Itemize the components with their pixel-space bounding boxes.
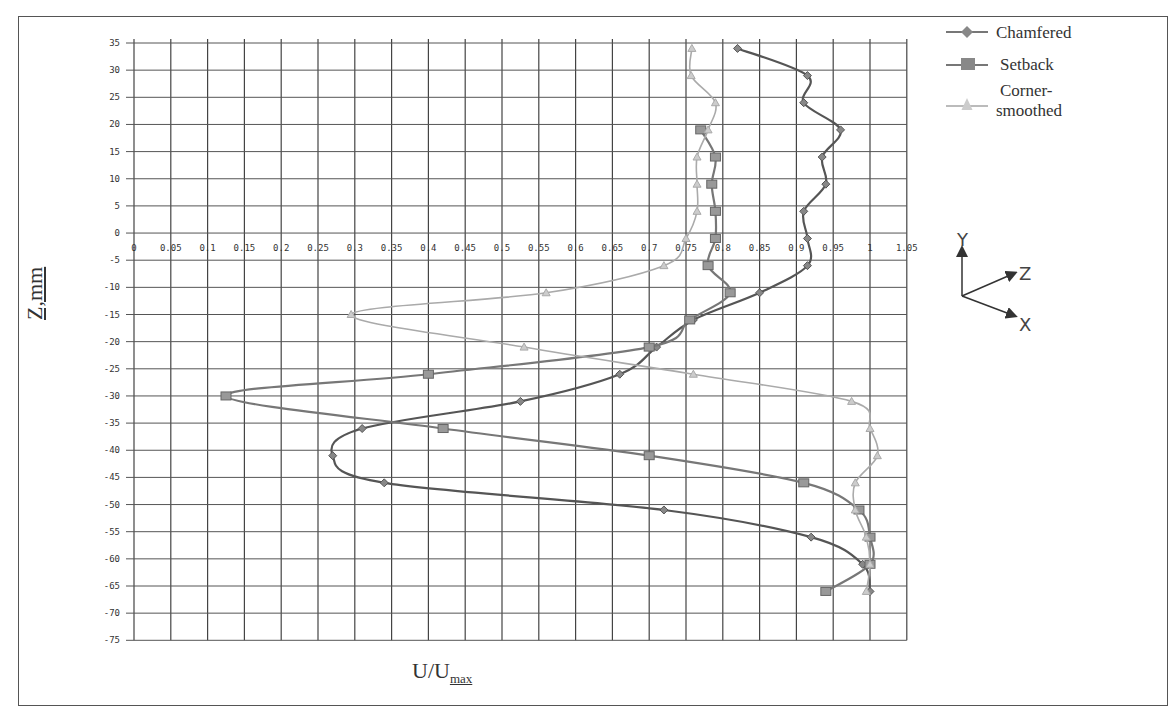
legend-label: Setback [1000, 56, 1054, 73]
x-axis-label: U/Umax [412, 658, 472, 687]
diamond-marker-icon [946, 26, 988, 38]
svg-text:0: 0 [131, 243, 136, 253]
svg-text:0.6: 0.6 [567, 243, 583, 253]
svg-text:0.55: 0.55 [528, 243, 550, 253]
svg-text:0.4: 0.4 [420, 243, 436, 253]
svg-text:-25: -25 [104, 364, 120, 374]
svg-text:0.45: 0.45 [454, 243, 476, 253]
svg-text:-15: -15 [104, 310, 120, 320]
svg-text:-45: -45 [104, 472, 120, 482]
svg-text:5: 5 [115, 201, 120, 211]
svg-text:-55: -55 [104, 527, 120, 537]
triangle-marker-icon [946, 98, 988, 110]
svg-text:0.25: 0.25 [307, 243, 329, 253]
svg-text:1.05: 1.05 [896, 243, 918, 253]
coordinate-axes-icon: Y Z X [945, 228, 1045, 338]
x-axis-icon-label: X [1019, 314, 1031, 335]
svg-text:10: 10 [109, 174, 120, 184]
svg-text:-50: -50 [104, 500, 120, 510]
svg-text:-60: -60 [104, 554, 120, 564]
svg-text:25: 25 [109, 92, 120, 102]
svg-text:0.05: 0.05 [160, 243, 182, 253]
legend-label-line2: smoothed [996, 102, 1062, 119]
svg-text:-30: -30 [104, 391, 120, 401]
svg-text:-5: -5 [109, 255, 120, 265]
data-series [221, 44, 881, 595]
legend-item-setback: Setback [940, 52, 1120, 84]
svg-text:0.8: 0.8 [715, 243, 731, 253]
svg-text:0.65: 0.65 [602, 243, 624, 253]
legend-label: Corner- [1000, 82, 1053, 99]
svg-text:1: 1 [867, 243, 872, 253]
svg-text:-35: -35 [104, 418, 120, 428]
svg-text:0.1: 0.1 [199, 243, 215, 253]
svg-text:-20: -20 [104, 337, 120, 347]
svg-text:0.75: 0.75 [675, 243, 697, 253]
legend: Chamfered Setback Corner- smoothed [940, 20, 1120, 128]
svg-text:0.3: 0.3 [347, 243, 363, 253]
legend-item-chamfered: Chamfered [940, 20, 1120, 52]
svg-text:-75: -75 [104, 635, 120, 645]
svg-text:0.5: 0.5 [494, 243, 510, 253]
svg-text:0.7: 0.7 [641, 243, 657, 253]
square-marker-icon [946, 58, 988, 70]
svg-text:15: 15 [109, 147, 120, 157]
y-axis-ticks: 35302520151050-5-10-15-20-25-30-35-40-45… [104, 38, 120, 645]
legend-label: Chamfered [996, 24, 1072, 41]
svg-text:-40: -40 [104, 445, 120, 455]
z-axis-icon-label: Z [1019, 263, 1031, 284]
y-axis-label: Z,mm [22, 267, 48, 320]
svg-text:0.85: 0.85 [749, 243, 771, 253]
svg-text:0.9: 0.9 [788, 243, 804, 253]
svg-text:-65: -65 [104, 581, 120, 591]
x-axis-ticks: 00.050.10.150.20.250.30.350.40.450.50.55… [131, 243, 917, 253]
svg-text:0.95: 0.95 [822, 243, 844, 253]
svg-text:0.2: 0.2 [273, 243, 289, 253]
svg-text:0.15: 0.15 [234, 243, 256, 253]
x-axis-label-main: U/U [412, 658, 450, 683]
svg-text:0: 0 [115, 228, 120, 238]
grid-lines [126, 39, 907, 640]
y-axis-icon-label: Y [956, 229, 969, 250]
svg-text:35: 35 [109, 38, 120, 48]
svg-text:20: 20 [109, 119, 120, 129]
svg-text:-70: -70 [104, 608, 120, 618]
svg-text:-10: -10 [104, 282, 120, 292]
legend-item-corner-smoothed: Corner- smoothed [940, 84, 1120, 128]
x-axis-label-sub: max [450, 671, 472, 686]
svg-text:0.35: 0.35 [381, 243, 403, 253]
svg-text:30: 30 [109, 65, 120, 75]
